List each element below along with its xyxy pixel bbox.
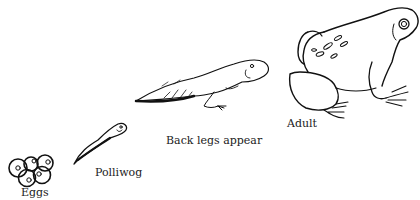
stage-label-adult: Adult <box>287 117 317 130</box>
stage-label-polliwog: Polliwog <box>95 166 142 179</box>
back-legs-tadpole-illustration <box>134 56 274 116</box>
adult-frog-illustration <box>284 2 420 122</box>
frog-life-cycle-diagram: Eggs Polliwog Back legs appear <box>0 0 420 200</box>
eggs-illustration <box>4 150 64 190</box>
polliwog-illustration <box>70 118 130 168</box>
stage-label-eggs: Eggs <box>21 186 49 199</box>
stage-label-back-legs: Back legs appear <box>166 134 262 147</box>
